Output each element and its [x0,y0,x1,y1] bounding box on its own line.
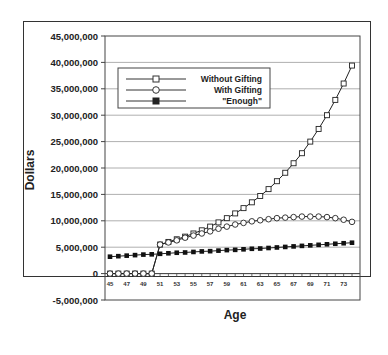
legend-label: With Gifting [214,85,262,95]
x-tick-label: 49 [140,281,147,287]
open-circle-marker-icon [299,214,305,220]
filled-square-marker-icon [153,98,159,104]
filled-square-marker-icon [241,247,246,252]
open-circle-marker-icon [166,240,172,246]
filled-square-marker-icon [108,254,113,259]
open-circle-marker-icon [149,271,155,277]
y-tick-label: -5,000,000 [53,295,98,306]
open-circle-marker-icon [199,231,205,237]
open-square-marker-icon [316,126,321,131]
open-square-marker-icon [153,76,159,82]
y-tick-label: 30,000,000 [50,110,98,121]
filled-square-marker-icon [225,248,230,253]
open-square-marker-icon [341,81,346,86]
x-tick-label: 63 [257,281,264,287]
y-tick-label: 15,000,000 [50,189,98,200]
x-tick-label: 73 [340,281,347,287]
open-square-marker-icon [258,193,263,198]
x-tick-label: 61 [240,281,247,287]
open-circle-marker-icon [341,217,347,223]
open-square-marker-icon [233,211,238,216]
open-square-marker-icon [266,187,271,192]
filled-square-marker-icon [174,250,179,255]
open-circle-marker-icon [324,214,330,220]
filled-square-marker-icon [308,243,313,248]
open-circle-marker-icon [291,214,297,220]
filled-square-marker-icon [258,246,263,251]
open-square-marker-icon [350,63,355,68]
x-tick-label: 69 [307,281,314,287]
open-square-marker-icon [249,200,254,205]
filled-square-marker-icon [250,246,255,251]
legend: Without Gifting With Gifting "Enough" [118,68,270,108]
open-circle-marker-icon [124,271,130,277]
x-axis-title: Age [224,308,247,322]
x-tick-label: 67 [290,281,297,287]
y-tick-label: 25,000,000 [50,136,98,147]
filled-square-marker-icon [291,244,296,249]
filled-square-marker-icon [149,252,154,257]
open-square-marker-icon [216,220,221,225]
y-tick-label: 40,000,000 [50,57,98,68]
open-square-marker-icon [324,113,329,118]
line-chart: 45,000,00040,000,00035,000,00030,000,000… [0,0,388,355]
open-circle-marker-icon [316,214,322,220]
open-circle-marker-icon [191,233,197,239]
series-enough [108,240,355,259]
open-square-marker-icon [291,161,296,166]
filled-square-marker-icon [341,241,346,246]
filled-square-marker-icon [275,245,280,250]
open-circle-marker-icon [241,220,247,226]
open-square-marker-icon [241,206,246,211]
y-tick-label: 0 [93,268,98,279]
open-circle-marker-icon [274,215,280,221]
open-circle-marker-icon [157,242,163,248]
y-axis-ticks: 45,000,00040,000,00035,000,00030,000,000… [50,31,105,306]
filled-square-marker-icon [133,253,138,258]
x-tick-label: 47 [123,281,130,287]
filled-square-marker-icon [166,251,171,256]
open-circle-marker-icon [107,271,113,277]
x-tick-label: 71 [324,281,331,287]
filled-square-marker-icon [266,246,271,251]
open-circle-marker-icon [307,214,313,220]
filled-square-marker-icon [158,252,163,257]
filled-square-marker-icon [233,248,238,253]
open-circle-marker-icon [207,229,213,235]
x-tick-label: 65 [274,281,281,287]
open-square-marker-icon [283,170,288,175]
x-tick-label: 53 [173,281,180,287]
open-square-marker-icon [299,151,304,156]
open-circle-marker-icon [153,87,160,94]
open-circle-marker-icon [132,271,138,277]
open-square-marker-icon [333,97,338,102]
filled-square-marker-icon [316,243,321,248]
y-tick-label: 35,000,000 [50,83,98,94]
open-circle-marker-icon [282,215,288,221]
open-circle-marker-icon [333,215,339,221]
open-circle-marker-icon [249,219,255,225]
open-circle-marker-icon [224,224,230,230]
filled-square-marker-icon [141,252,146,257]
legend-label: Without Gifting [201,74,262,84]
filled-square-marker-icon [191,250,196,255]
filled-square-marker-icon [116,254,121,259]
x-tick-label: 55 [190,281,197,287]
legend-label: "Enough" [222,96,262,106]
open-circle-marker-icon [216,226,222,232]
y-tick-label: 45,000,000 [50,31,98,42]
filled-square-marker-icon [283,245,288,250]
open-square-marker-icon [224,216,229,221]
y-tick-label: 10,000,000 [50,215,98,226]
y-axis-title: Dollars [23,149,37,190]
x-tick-label: 59 [223,281,230,287]
filled-square-marker-icon [124,253,129,258]
filled-square-marker-icon [300,244,305,249]
y-tick-label: 20,000,000 [50,163,98,174]
open-circle-marker-icon [232,222,238,228]
filled-square-marker-icon [333,241,338,246]
filled-square-marker-icon [199,249,204,254]
filled-square-marker-icon [350,240,355,245]
open-circle-marker-icon [116,271,122,277]
open-circle-marker-icon [174,238,180,244]
